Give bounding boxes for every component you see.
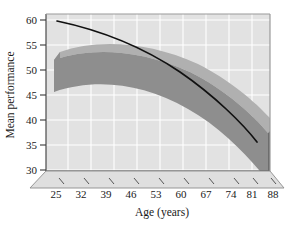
x-tick-label: 25	[51, 188, 63, 200]
x-tick-label: 53	[151, 188, 163, 200]
floor-surface	[30, 171, 284, 188]
x-tick-label: 46	[126, 188, 138, 200]
y-tick-label: 30	[26, 164, 38, 176]
y-tick-label: 50	[26, 64, 38, 76]
y-tick-label: 60	[26, 14, 38, 26]
y-axis-tick-labels: 60 55 50 45 40 35 30	[26, 14, 38, 176]
x-axis-tick-labels: 25 32 39 46 53 60 67 74 81 88	[51, 188, 280, 200]
x-axis-title: Age (years)	[135, 206, 189, 219]
y-axis-title: Mean performance	[4, 51, 17, 138]
chart-canvas: 60 55 50 45 40 35 30 25 32 39 46 53 60 6…	[0, 0, 298, 229]
x-tick-label: 67	[201, 188, 213, 200]
x-tick-label: 74	[226, 188, 238, 200]
x-tick-label: 32	[76, 188, 87, 200]
floor-plane	[30, 171, 284, 188]
y-tick-label: 55	[26, 39, 38, 51]
y-tick-label: 35	[26, 139, 38, 151]
x-tick-label: 60	[176, 188, 188, 200]
x-tick-label: 39	[101, 188, 113, 200]
x-tick-label: 88	[268, 188, 280, 200]
x-tick-label: 81	[247, 188, 258, 200]
chart-figure: 60 55 50 45 40 35 30 25 32 39 46 53 60 6…	[0, 0, 298, 229]
y-tick-label: 40	[26, 114, 38, 126]
y-axis-ticks	[40, 20, 46, 170]
y-tick-label: 45	[26, 89, 38, 101]
